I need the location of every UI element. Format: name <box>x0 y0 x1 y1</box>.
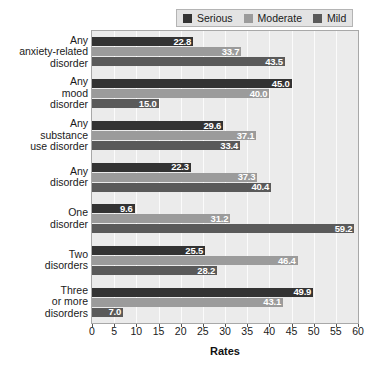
category-label-line: disorder <box>2 58 88 70</box>
bar-mild-5[interactable]: 28.2 <box>92 266 217 275</box>
legend-entry-moderate[interactable]: Moderate <box>244 13 302 24</box>
gridline <box>314 31 315 323</box>
bar-value-label: 37.1 <box>237 131 257 141</box>
category-label-line: disorders <box>2 308 88 320</box>
bar-serious-2[interactable]: 29.6 <box>92 121 223 130</box>
bar-value-label: 7.0 <box>108 307 123 317</box>
x-axis-tick-label: 55 <box>330 326 342 337</box>
bar-value-label: 22.8 <box>173 37 193 47</box>
bar-serious-0[interactable]: 22.8 <box>92 37 193 46</box>
bar-value-label: 59.2 <box>335 224 355 234</box>
x-axis-tick-label: 5 <box>111 326 117 337</box>
bar-value-label: 49.9 <box>294 287 314 297</box>
bar-value-label: 28.2 <box>197 266 217 276</box>
x-axis-tick-label: 30 <box>219 326 231 337</box>
x-axis: 051015202530354045505560 <box>91 324 359 340</box>
bar-value-label: 15.0 <box>139 99 159 109</box>
category-label-line: anxiety-related <box>2 46 88 58</box>
bar-mild-2[interactable]: 33.4 <box>92 141 240 150</box>
category-label-line: One <box>2 207 88 219</box>
x-axis-tick-label: 40 <box>263 326 275 337</box>
category-label-line: disorder <box>2 99 88 111</box>
x-axis-tick-label: 20 <box>175 326 187 337</box>
bar-value-label: 46.4 <box>278 256 298 266</box>
bar-value-label: 25.5 <box>185 246 205 256</box>
bar-value-label: 22.3 <box>171 162 191 172</box>
x-axis-tick-label: 0 <box>89 326 95 337</box>
bar-moderate-3[interactable]: 37.3 <box>92 173 257 182</box>
bar-moderate-0[interactable]: 33.7 <box>92 47 241 56</box>
gridline <box>336 31 337 323</box>
bar-serious-4[interactable]: 9.6 <box>92 204 135 213</box>
bar-value-label: 45.0 <box>272 79 292 89</box>
category-label-1: Anymooddisorder <box>2 76 88 111</box>
bar-value-label: 31.2 <box>211 214 231 224</box>
plot-area: 22.833.743.545.040.015.029.637.133.422.3… <box>91 30 359 324</box>
bar-value-label: 33.4 <box>220 141 240 151</box>
legend-label: Moderate <box>258 13 302 24</box>
bar-moderate-4[interactable]: 31.2 <box>92 214 230 223</box>
bar-serious-3[interactable]: 22.3 <box>92 163 191 172</box>
bar-value-label: 9.6 <box>120 204 135 214</box>
chart-legend: SeriousModerateMild <box>176 9 353 27</box>
x-axis-tick-label: 45 <box>286 326 298 337</box>
legend-entry-serious[interactable]: Serious <box>183 13 233 24</box>
category-label-line: use disorder <box>2 141 88 153</box>
x-axis-tick-label: 10 <box>130 326 142 337</box>
x-axis-tick-label: 60 <box>352 326 364 337</box>
bar-moderate-2[interactable]: 37.1 <box>92 131 256 140</box>
bar-moderate-5[interactable]: 46.4 <box>92 256 298 265</box>
category-label-5: Twodisorders <box>2 249 88 272</box>
bar-mild-6[interactable]: 7.0 <box>92 308 123 317</box>
category-label-6: Threeor moredisorders <box>2 285 88 320</box>
bar-mild-3[interactable]: 40.4 <box>92 183 271 192</box>
category-label-0: Anyanxiety-relateddisorder <box>2 35 88 70</box>
legend-swatch-serious-icon <box>183 14 192 23</box>
bar-moderate-6[interactable]: 43.1 <box>92 298 283 307</box>
bar-serious-1[interactable]: 45.0 <box>92 79 292 88</box>
bar-mild-0[interactable]: 43.5 <box>92 57 285 66</box>
category-label-4: Onedisorder <box>2 207 88 230</box>
bar-chart: SeriousModerateMild Anyanxiety-relateddi… <box>0 0 371 374</box>
x-axis-title: Rates <box>91 345 359 357</box>
category-axis-labels: Anyanxiety-relateddisorderAnymooddisorde… <box>0 30 88 324</box>
legend-swatch-moderate-icon <box>244 14 253 23</box>
bar-moderate-1[interactable]: 40.0 <box>92 89 269 98</box>
x-axis-tick-label: 50 <box>308 326 320 337</box>
category-label-line: disorder <box>2 219 88 231</box>
bar-serious-5[interactable]: 25.5 <box>92 246 205 255</box>
x-axis-tick-label: 25 <box>197 326 209 337</box>
bar-value-label: 40.4 <box>251 182 271 192</box>
bar-value-label: 43.5 <box>265 57 285 67</box>
legend-label: Mild <box>327 13 346 24</box>
x-axis-tick-label: 15 <box>153 326 165 337</box>
bar-serious-6[interactable]: 49.9 <box>92 288 313 297</box>
category-label-3: Anydisorder <box>2 166 88 189</box>
gridline <box>358 31 359 323</box>
gridline <box>269 31 270 323</box>
gridline <box>292 31 293 323</box>
category-label-line: disorders <box>2 260 88 272</box>
category-label-line: Any <box>2 118 88 130</box>
category-label-2: Anysubstanceuse disorder <box>2 118 88 153</box>
bar-value-label: 29.6 <box>204 121 224 131</box>
category-label-line: disorder <box>2 177 88 189</box>
legend-swatch-mild-icon <box>313 14 322 23</box>
bar-mild-4[interactable]: 59.2 <box>92 224 354 233</box>
legend-label: Serious <box>197 13 233 24</box>
x-axis-tick-label: 35 <box>241 326 253 337</box>
bar-value-label: 33.7 <box>222 47 242 57</box>
legend-entry-mild[interactable]: Mild <box>313 13 346 24</box>
bar-value-label: 43.1 <box>263 297 283 307</box>
bar-mild-1[interactable]: 15.0 <box>92 99 159 108</box>
bar-value-label: 40.0 <box>250 89 270 99</box>
